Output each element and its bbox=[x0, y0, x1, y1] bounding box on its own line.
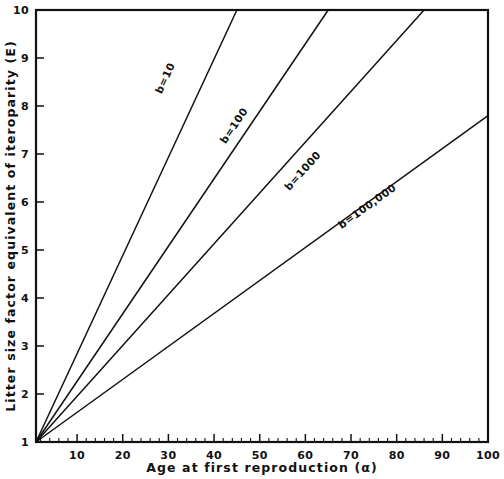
x-tick-label: 10 bbox=[69, 449, 85, 462]
y-tick-label: 9 bbox=[21, 52, 29, 65]
chart-figure: 102030405060708090100 12345678910 b=10b=… bbox=[0, 0, 504, 479]
y-tick-label: 7 bbox=[21, 148, 29, 161]
y-axis-title: Litter size factor equivalent of iteropa… bbox=[3, 40, 18, 412]
y-tick-label: 5 bbox=[21, 244, 29, 257]
y-tick-label: 6 bbox=[21, 196, 29, 209]
x-tick-label: 80 bbox=[389, 449, 405, 462]
y-tick-label: 8 bbox=[21, 100, 29, 113]
y-tick-label: 1 bbox=[21, 436, 29, 449]
x-tick-label: 20 bbox=[115, 449, 131, 462]
x-axis-title: Age at first reproduction (α) bbox=[146, 460, 377, 475]
chart-background bbox=[0, 0, 504, 479]
line-chart-svg: 102030405060708090100 12345678910 b=10b=… bbox=[0, 0, 504, 479]
y-tick-label: 10 bbox=[13, 4, 29, 17]
y-tick-label: 2 bbox=[21, 388, 29, 401]
x-tick-label: 90 bbox=[434, 449, 450, 462]
x-tick-label: 100 bbox=[476, 449, 500, 462]
y-tick-label: 3 bbox=[21, 340, 29, 353]
y-tick-label: 4 bbox=[21, 292, 29, 305]
